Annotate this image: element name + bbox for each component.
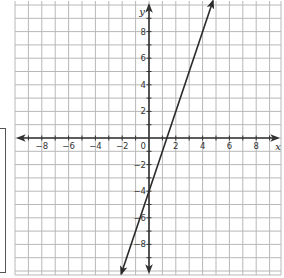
- x-tick-label: −2: [116, 141, 129, 151]
- x-tick-label: 2: [173, 141, 178, 151]
- y-tick-label: −8: [133, 239, 146, 249]
- y-tick-label: 2: [141, 106, 146, 116]
- x-tick-label: 8: [253, 141, 258, 151]
- x-tick-label: −4: [89, 141, 102, 151]
- x-axis-label: x: [275, 141, 281, 152]
- x-tick-label: 4: [200, 141, 205, 151]
- tick-labels: −8−6−4−224680−8−6−4−22468xy: [36, 6, 282, 249]
- y-tick-label: 4: [141, 80, 146, 90]
- x-tick-label: −8: [36, 141, 49, 151]
- y-tick-label: 6: [141, 53, 146, 63]
- y-axis-label: y: [138, 6, 145, 17]
- y-tick-label: −4: [133, 186, 146, 196]
- origin-label: 0: [141, 141, 146, 151]
- y-tick-label: 8: [141, 27, 146, 37]
- x-tick-label: 6: [227, 141, 232, 151]
- coordinate-plane: −8−6−4−224680−8−6−4−22468xy: [0, 0, 284, 278]
- y-tick-label: −2: [133, 160, 146, 170]
- x-tick-label: −6: [62, 141, 75, 151]
